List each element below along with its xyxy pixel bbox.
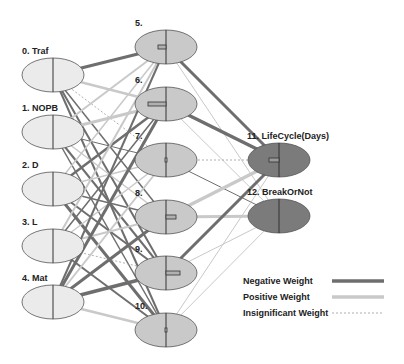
node-1[interactable]: 1. NOPB: [22, 103, 84, 149]
bias-bar: [165, 158, 167, 162]
node-label: 12. BreakOrNot: [247, 187, 313, 197]
legend-label-negative: Negative Weight: [243, 276, 313, 286]
node-label: 11. LifeCycle(Days): [247, 131, 329, 141]
node-label: 2. D: [22, 160, 39, 170]
node-12[interactable]: 12. BreakOrNot: [247, 187, 313, 233]
node-label: 6.: [135, 75, 143, 85]
node-label: 8.: [135, 188, 143, 198]
bias-bar: [166, 215, 176, 219]
node-label: 1. NOPB: [22, 103, 59, 113]
neural-network-diagram: 0. Traf1. NOPB2. D3. L4. Mat5.6.7.8.9.10…: [0, 0, 404, 364]
node-0[interactable]: 0. Traf: [22, 46, 84, 92]
legend-label-insignificant: Insignificant Weight: [243, 308, 328, 318]
node-label: 3. L: [22, 217, 38, 227]
node-2[interactable]: 2. D: [22, 160, 84, 206]
node-8[interactable]: 8.: [135, 188, 197, 234]
node-11[interactable]: 11. LifeCycle(Days): [247, 131, 329, 177]
edge-10-11: [166, 160, 279, 330]
bias-bar: [269, 158, 279, 162]
node-label: 10.: [135, 301, 148, 311]
node-label: 5.: [135, 18, 143, 28]
node-4[interactable]: 4. Mat: [22, 273, 84, 319]
node-7[interactable]: 7.: [135, 131, 197, 177]
node-6[interactable]: 6.: [135, 75, 197, 121]
bias-bar: [148, 102, 166, 106]
node-5[interactable]: 5.: [135, 18, 197, 64]
node-label: 4. Mat: [22, 273, 48, 283]
legend: Negative Weight Positive Weight Insignif…: [243, 276, 384, 318]
node-label: 9.: [135, 244, 143, 254]
bias-bar: [158, 45, 166, 49]
bias-bar: [165, 328, 167, 332]
node-label: 7.: [135, 131, 143, 141]
node-label: 0. Traf: [22, 46, 50, 56]
node-3[interactable]: 3. L: [22, 217, 84, 263]
legend-label-positive: Positive Weight: [243, 292, 310, 302]
bias-bar: [166, 271, 180, 275]
